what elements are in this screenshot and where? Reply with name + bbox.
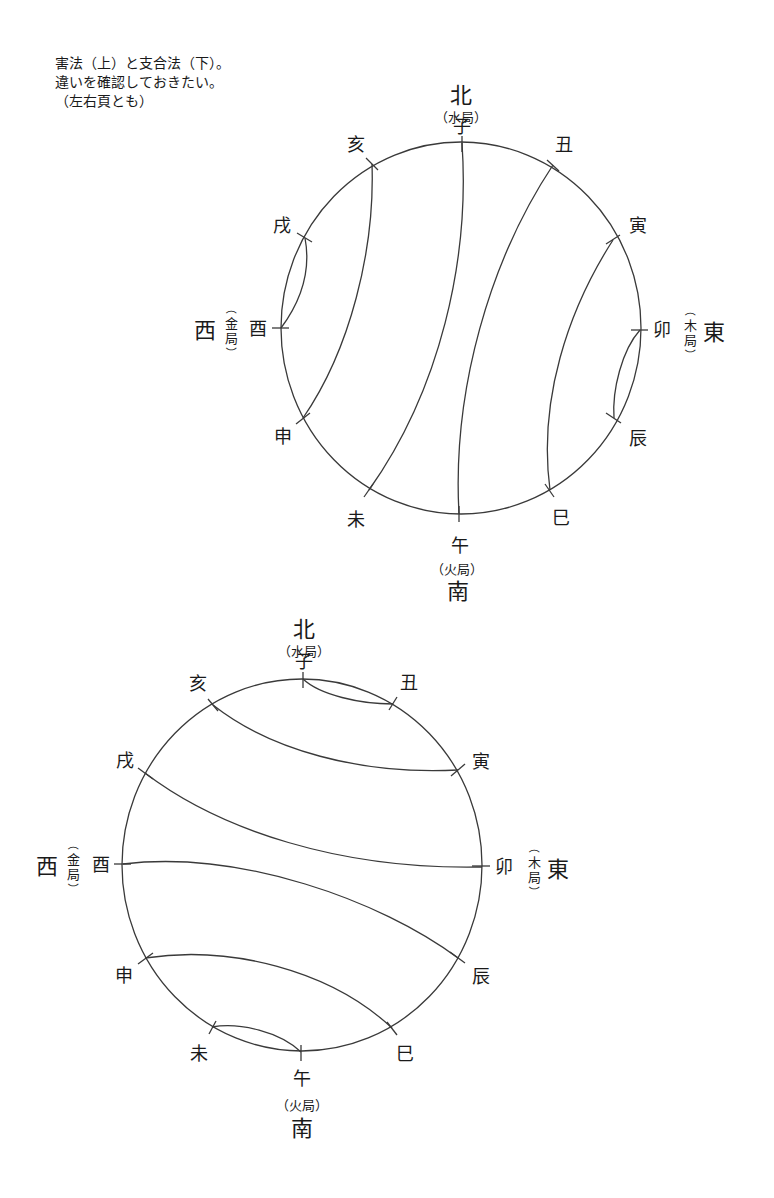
union-west-label: 西 [36,854,58,879]
union-branch-wei: 未 [190,1043,208,1064]
union-east-label: 東 [547,857,569,882]
diagram-canvas: 北 （水局） 子 丑 寅 卯 辰 巳 午 （火局） 南 未 申 酉 戌 亥 西 … [0,0,774,1198]
union-labels: 北 （水局） 子 丑 寅 卯 辰 巳 午 （火局） 南 未 申 酉 戌 亥 西 … [36,617,569,1141]
svg-text:局: 局 [67,867,80,882]
harm-west-element: （ 金 局 ） [224,303,238,358]
harm-south-element: （火局） [431,562,483,577]
union-east-element: （ 木 局 ） [527,842,541,897]
svg-text:（: （ [683,305,696,316]
union-line-xu-mao [145,773,482,867]
union-branch-chen: 辰 [472,966,490,987]
svg-text:）: ） [66,883,79,894]
harm-line-xu-you [281,238,307,328]
harm-line-yin-si [547,240,613,490]
union-branch-chou: 丑 [400,672,418,693]
harm-ticks [272,136,648,522]
union-circle [122,679,482,1051]
union-branch-wu: 午 [293,1068,311,1089]
branch-hai: 亥 [347,134,365,155]
union-north-label: 北 [293,617,315,642]
branch-wu: 午 [451,535,469,556]
union-branch-si: 巳 [396,1043,414,1064]
union-branch-hai: 亥 [189,673,207,694]
branch-yin: 寅 [629,215,647,236]
union-branch-mao: 卯 [495,856,513,877]
harm-connections [281,143,640,514]
svg-text:（: （ [527,842,540,853]
svg-text:）: ） [527,886,540,897]
union-branch-xu: 戌 [116,750,134,771]
harm-labels: 北 （水局） 子 丑 寅 卯 辰 巳 午 （火局） 南 未 申 酉 戌 亥 西 … [194,83,725,604]
union-branch-you: 酉 [92,854,110,875]
union-branch-shen: 申 [115,965,133,986]
branch-wei: 未 [347,509,365,530]
branch-mao: 卯 [653,319,671,340]
svg-text:金: 金 [67,852,80,867]
branch-zi: 子 [453,116,471,137]
union-line-zi-chou [303,679,393,704]
branch-chou: 丑 [555,134,573,155]
svg-text:金: 金 [225,316,238,331]
harm-east-label: 東 [703,320,725,345]
harm-line-chou-wu [458,165,553,514]
union-line-hai-yin [213,705,458,771]
union-south-label: 南 [291,1116,313,1141]
union-south-element: （火局） [276,1098,328,1113]
svg-text:木: 木 [528,855,541,870]
svg-text:）: ） [224,347,237,358]
harm-north-label: 北 [450,83,472,108]
svg-text:（: （ [66,839,79,850]
harm-line-hai-shen [303,164,372,418]
harm-east-element: （ 木 局 ） [683,305,697,360]
harm-west-label: 西 [194,318,216,343]
union-line-shen-si [145,955,392,1028]
union-line-wei-wu [212,1026,301,1052]
svg-text:局: 局 [225,331,238,346]
svg-text:木: 木 [684,318,697,333]
harm-diagram: 北 （水局） 子 丑 寅 卯 辰 巳 午 （火局） 南 未 申 酉 戌 亥 西 … [194,83,725,604]
union-branch-yin: 寅 [472,751,490,772]
branch-shen: 申 [274,426,292,447]
union-line-you-chen [123,862,458,958]
svg-text:）: ） [683,349,696,360]
harm-circle [281,142,641,514]
branch-xu: 戌 [273,215,291,236]
union-diagram: 北 （水局） 子 丑 寅 卯 辰 巳 午 （火局） 南 未 申 酉 戌 亥 西 … [36,617,569,1141]
harm-south-label: 南 [447,579,469,604]
union-connections [123,679,482,1052]
harm-line-zi-wei [369,143,463,490]
svg-text:局: 局 [528,870,541,885]
branch-si: 巳 [552,507,570,528]
svg-text:局: 局 [684,333,697,348]
union-west-element: （ 金 局 ） [66,839,80,894]
branch-you: 酉 [249,318,267,339]
union-branch-zi: 子 [295,651,313,672]
svg-text:（: （ [224,303,237,314]
branch-chen: 辰 [629,428,647,449]
